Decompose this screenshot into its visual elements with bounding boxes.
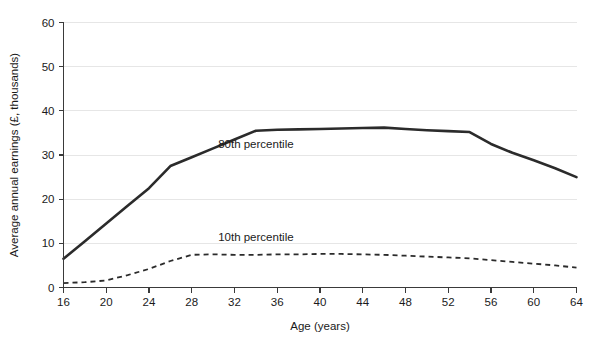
x-tick-label-44: 44 <box>356 296 369 308</box>
x-tick-label-60: 60 <box>527 296 540 308</box>
annotation-10th-percentile: 10th percentile <box>218 231 293 243</box>
x-axis-title: Age (years) <box>290 320 350 332</box>
y-axis-title: Average annual earnings (£, thousands) <box>8 53 20 258</box>
x-tick-label-48: 48 <box>399 296 412 308</box>
x-tick-label-56: 56 <box>485 296 498 308</box>
x-tick-label-52: 52 <box>442 296 455 308</box>
x-tick-label-40: 40 <box>314 296 327 308</box>
x-tick-label-36: 36 <box>271 296 284 308</box>
y-tick-label-0: 0 <box>48 282 54 294</box>
x-tick-label-32: 32 <box>228 296 241 308</box>
y-tick-label-10: 10 <box>42 237 55 249</box>
annotation-80th-percentile: 80th percentile <box>218 138 293 150</box>
x-tick-label-28: 28 <box>185 296 198 308</box>
x-tick-label-64: 64 <box>570 296 583 308</box>
y-tick-label-40: 40 <box>42 105 55 117</box>
y-tick-label-60: 60 <box>42 17 55 29</box>
chart-container: 16202428323640444852566064 0102030405060… <box>0 0 594 341</box>
earnings-by-age-line-chart: 16202428323640444852566064 0102030405060… <box>0 0 594 341</box>
y-tick-label-30: 30 <box>42 149 55 161</box>
y-tick-label-20: 20 <box>42 193 55 205</box>
y-tick-label-50: 50 <box>42 61 55 73</box>
x-tick-label-20: 20 <box>100 296 113 308</box>
chart-background <box>0 0 594 341</box>
x-tick-label-16: 16 <box>57 296 70 308</box>
x-tick-label-24: 24 <box>143 296 156 308</box>
